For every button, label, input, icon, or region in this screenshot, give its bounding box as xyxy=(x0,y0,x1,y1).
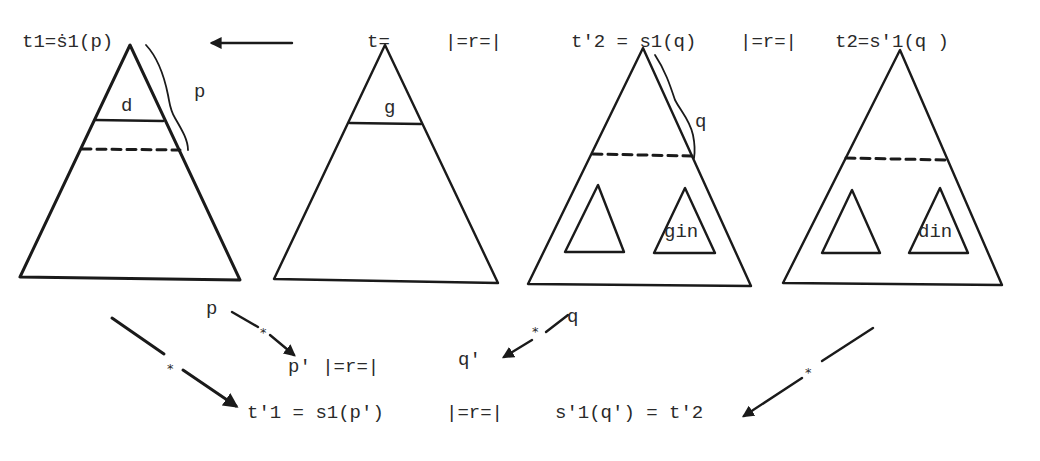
label-t-prime-1: t'1 = s1(p') xyxy=(247,402,384,424)
label-p-path: p xyxy=(194,81,205,103)
label-q-path: q xyxy=(695,111,706,133)
label-s-prime-1: s'1(q') = t'2 xyxy=(555,402,703,424)
label-q-prime: q' xyxy=(458,349,481,371)
label-p: p xyxy=(206,298,217,320)
svg-text:*: * xyxy=(532,324,539,339)
tree-t2: din xyxy=(783,50,1002,285)
label-q: q xyxy=(567,306,578,328)
tree-t-prime-2: q gin xyxy=(528,48,751,286)
label-t-prime-2: t'2 = s1(q) xyxy=(571,31,696,53)
label-t1: t1=ṡ1(p) xyxy=(22,31,113,53)
arrow-p-to-p-prime-icon: * xyxy=(232,312,294,355)
label-relation-3: |=r=| xyxy=(446,402,503,424)
label-relation-2: |=r=| xyxy=(740,31,797,53)
label-g: g xyxy=(384,97,395,119)
label-relation-1: |=r=| xyxy=(445,31,502,53)
label-din: din xyxy=(918,221,952,243)
label-t2: t2=s'1(q ) xyxy=(835,31,949,53)
tree-t: g xyxy=(274,45,498,283)
svg-text:*: * xyxy=(805,365,812,380)
label-gin: gin xyxy=(664,221,698,243)
label-p-prime-relation: p' |=r=| xyxy=(288,356,379,378)
label-d: d xyxy=(121,95,132,117)
arrow-t2-to-t-prime-2-icon: * xyxy=(744,328,873,416)
diagram-canvas: t1=ṡ1(p) t= |=r=| t'2 = s1(q) |=r=| t2=s… xyxy=(0,0,1040,461)
arrow-t1-to-t-prime-1-icon: * xyxy=(112,318,236,406)
arrow-q-to-q-prime-icon: * xyxy=(504,315,568,357)
svg-text:*: * xyxy=(260,325,267,340)
tree-t1: d p xyxy=(20,45,240,280)
svg-text:*: * xyxy=(167,361,174,376)
